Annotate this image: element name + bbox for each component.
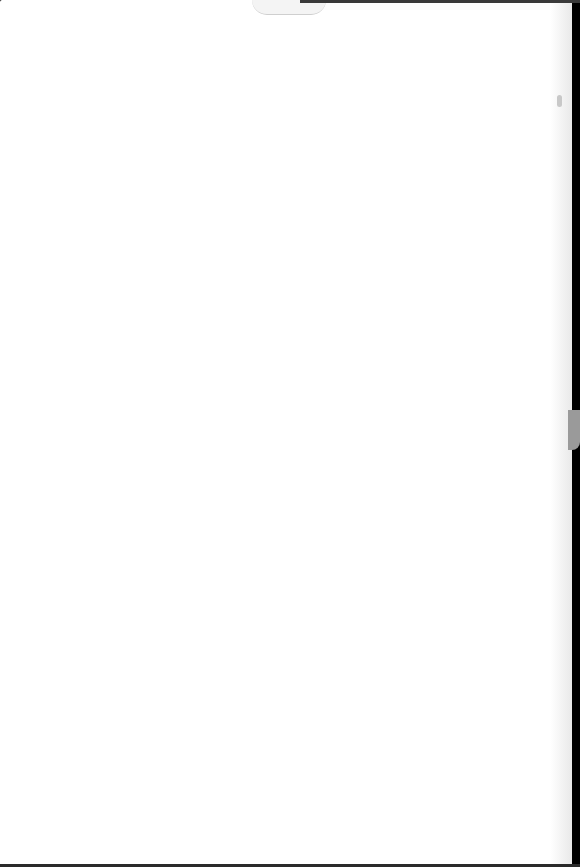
paper-fold-tab <box>568 410 580 450</box>
scanned-page <box>0 0 572 864</box>
scan-speck <box>557 95 562 107</box>
scan-top-edge <box>300 0 580 3</box>
